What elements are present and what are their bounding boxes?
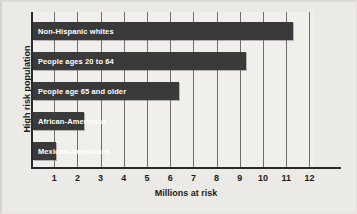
- x-tick-label-11: 11: [277, 173, 295, 183]
- x-tick-label-9: 9: [231, 173, 249, 183]
- bar-label: People ages 20 to 64: [38, 57, 114, 66]
- x-axis-title: Millions at risk: [31, 188, 341, 198]
- plot-area: Non-Hispanic whitesPeople ages 20 to 64P…: [31, 12, 341, 168]
- gridline-12: [309, 12, 310, 167]
- x-tick-label-8: 8: [208, 173, 226, 183]
- bar-label: Mexican-Americans: [38, 147, 110, 156]
- bar: People age 65 and older: [33, 82, 179, 100]
- x-tick-label-3: 3: [92, 173, 110, 183]
- bar-label: Non-Hispanic whites: [38, 27, 114, 36]
- x-tick-label-6: 6: [161, 173, 179, 183]
- x-tick-label-10: 10: [254, 173, 272, 183]
- x-tick-label-4: 4: [115, 173, 133, 183]
- chart-screenshot: High risk population Non-Hispanic whites…: [0, 0, 357, 214]
- x-tick-label-12: 12: [300, 173, 318, 183]
- x-tick-label-1: 1: [45, 173, 63, 183]
- x-tick-label-2: 2: [68, 173, 86, 183]
- bar-label: People age 65 and older: [38, 87, 126, 96]
- x-tick-label-7: 7: [184, 173, 202, 183]
- bar-label: African-Americans: [38, 117, 106, 126]
- bar: Non-Hispanic whites: [33, 22, 293, 40]
- x-tick-label-5: 5: [138, 173, 156, 183]
- bar: African-Americans: [33, 112, 84, 130]
- x-axis-line: [31, 167, 341, 169]
- bar: People ages 20 to 64: [33, 52, 246, 70]
- bar: Mexican-Americans: [33, 142, 56, 160]
